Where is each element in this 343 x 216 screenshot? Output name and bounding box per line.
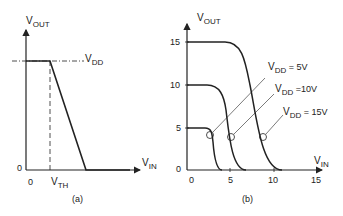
x-tick-0: 0 [189, 175, 194, 185]
annotation-vdd-5v: VDD = 5V [268, 61, 308, 75]
x-tick-10: 10 [268, 175, 278, 185]
switch-point-10v [228, 134, 235, 141]
x-axis-label: VIN [142, 157, 157, 171]
origin-y-label: 0 [17, 163, 22, 173]
panel-a: VOUT VDD VIN 0 0 VTH (a) [12, 15, 157, 204]
y-axis-label: VOUT [26, 15, 50, 29]
x-tick-15: 15 [311, 175, 321, 185]
y-axis-label: VOUT [197, 12, 221, 26]
panel-b: VOUT VIN 0 5 10 15 0 5 10 15 VDD = 5V VD… [170, 12, 329, 204]
transfer-characteristics-diagram: VOUT VDD VIN 0 0 VTH (a) VOUT VIN 0 5 [0, 0, 343, 216]
curve-vdd-5v [187, 128, 222, 170]
y-tick-15: 15 [170, 37, 180, 47]
annotation-vdd-10v: VDD =10V [275, 83, 317, 97]
y-tick-5: 5 [176, 123, 181, 133]
vdd-label: VDD [85, 53, 103, 67]
annotation-vdd-15v: VDD = 15V [283, 106, 328, 120]
x-tick-5: 5 [228, 175, 233, 185]
y-tick-0: 0 [176, 164, 181, 174]
origin-x-label: 0 [28, 177, 33, 187]
x-axis-label: VIN [314, 155, 329, 169]
transfer-curve [26, 61, 130, 170]
vth-label: VTH [51, 176, 69, 190]
leader-10v [234, 94, 274, 134]
caption-b: (b) [242, 194, 253, 204]
leader-15v [266, 115, 283, 134]
y-tick-10: 10 [170, 80, 180, 90]
caption-a: (a) [72, 194, 83, 204]
